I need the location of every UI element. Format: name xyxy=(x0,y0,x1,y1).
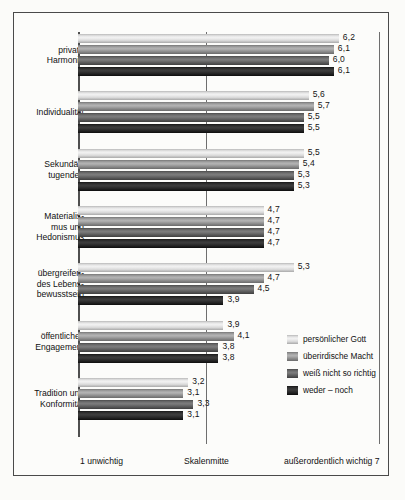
category-label: Materialis-mus undHedonismus xyxy=(16,211,84,243)
category-label-line: Individualität xyxy=(16,107,84,118)
bar-value-label: 6,2 xyxy=(343,32,355,42)
bar-value-label: 4,7 xyxy=(268,204,280,214)
scale-caption-right: außerordentlich wichtig 7 xyxy=(284,456,380,466)
bar-row: 5,3 xyxy=(78,171,378,182)
bar xyxy=(78,332,234,341)
bar-row: 4,7 xyxy=(78,274,378,285)
bar-row: 5,7 xyxy=(78,102,378,113)
category-label-line: Konformität xyxy=(16,399,84,410)
bar xyxy=(78,411,183,420)
bar xyxy=(78,343,218,352)
bar xyxy=(78,378,188,387)
bar-value-label: 5,5 xyxy=(308,122,320,132)
category-label-line: übergreifen- xyxy=(16,268,84,279)
bar-value-label: 6,1 xyxy=(338,43,350,53)
bar-row: 6,2 xyxy=(78,34,378,45)
category-label-line: mus und xyxy=(16,222,84,233)
bar-group: 5,34,74,53,9 xyxy=(78,263,378,307)
legend-swatch xyxy=(287,386,298,395)
bar-row: 5,3 xyxy=(78,182,378,193)
bar xyxy=(78,91,309,100)
chart-page: privateHarmonieIndividualitätSekundär-tu… xyxy=(0,0,405,500)
bar xyxy=(78,285,254,294)
bar-row: 5,5 xyxy=(78,124,378,135)
bar-value-label: 3,9 xyxy=(227,294,239,304)
bar xyxy=(78,400,193,409)
legend-item: persönlicher Gott xyxy=(287,334,387,347)
category-label-line: Engagement xyxy=(16,342,84,353)
legend-label: weiß nicht so richtig xyxy=(303,368,376,378)
bar xyxy=(78,217,264,226)
legend: persönlicher Gottüberirdische Machtweiß … xyxy=(287,334,387,402)
bar-group: 5,65,75,55,5 xyxy=(78,91,378,135)
bar-value-label: 4,7 xyxy=(268,215,280,225)
bar xyxy=(78,263,294,272)
bar-row: 3,1 xyxy=(78,411,378,422)
bar xyxy=(78,274,264,283)
bar-value-label: 3,1 xyxy=(187,409,199,419)
legend-swatch xyxy=(287,335,298,344)
bar-value-label: 5,5 xyxy=(308,111,320,121)
legend-item: überirdische Macht xyxy=(287,351,387,364)
bar-value-label: 3,1 xyxy=(187,387,199,397)
bar-value-label: 5,7 xyxy=(318,100,330,110)
bar xyxy=(78,354,218,363)
category-label: übergreifen-des Lebens-bewusstsein xyxy=(16,268,84,300)
scale-caption-left: 1 unwichtig xyxy=(80,456,123,466)
bar-value-label: 4,7 xyxy=(268,237,280,247)
legend-label: überirdische Macht xyxy=(303,351,373,361)
bar-value-label: 5,3 xyxy=(298,169,310,179)
bar-row: 3,9 xyxy=(78,296,378,307)
legend-swatch xyxy=(287,352,298,361)
bar xyxy=(78,102,314,111)
bar-value-label: 3,9 xyxy=(227,319,239,329)
bar-value-label: 4,1 xyxy=(238,330,250,340)
bar xyxy=(78,228,264,237)
bar-row: 4,7 xyxy=(78,217,378,228)
bar xyxy=(78,113,304,122)
category-label-line: Materialis- xyxy=(16,211,84,222)
bar xyxy=(78,160,299,169)
chart-frame: privateHarmonieIndividualitätSekundär-tu… xyxy=(13,12,389,476)
bar-value-label: 3,2 xyxy=(192,376,204,386)
bar-row: 4,7 xyxy=(78,206,378,217)
bar-row: 5,3 xyxy=(78,263,378,274)
category-label: Individualität xyxy=(16,107,84,118)
category-label-line: öffentliches xyxy=(16,331,84,342)
category-label-line: des Lebens- xyxy=(16,279,84,290)
bar xyxy=(78,124,304,133)
category-label-line: Sekundär- xyxy=(16,159,84,170)
bar xyxy=(78,182,294,191)
bar-row: 5,5 xyxy=(78,113,378,124)
category-label: Sekundär-tugenden xyxy=(16,159,84,180)
category-label-line: Tradition und xyxy=(16,388,84,399)
bar-row: 3,9 xyxy=(78,321,378,332)
legend-item: weiß nicht so richtig xyxy=(287,368,387,381)
bar-group: 6,26,16,06,1 xyxy=(78,34,378,78)
bar-row: 4,7 xyxy=(78,239,378,250)
category-label-line: Harmonie xyxy=(16,55,84,66)
bar xyxy=(78,389,183,398)
bar-value-label: 3,8 xyxy=(222,341,234,351)
category-label-line: Hedonismus xyxy=(16,232,84,243)
bar-value-label: 6,0 xyxy=(333,54,345,64)
legend-swatch xyxy=(287,369,298,378)
legend-label: persönlicher Gott xyxy=(303,334,366,344)
bar xyxy=(78,149,304,158)
legend-item: weder – noch xyxy=(287,385,387,398)
bar-value-label: 5,3 xyxy=(298,180,310,190)
bar-value-label: 5,4 xyxy=(303,158,315,168)
bar-row: 6,1 xyxy=(78,67,378,78)
bar-value-label: 6,1 xyxy=(338,65,350,75)
bar xyxy=(78,171,294,180)
bar-group: 5,55,45,35,3 xyxy=(78,149,378,193)
category-label: öffentlichesEngagement xyxy=(16,331,84,352)
bar-value-label: 5,6 xyxy=(313,89,325,99)
bar-value-label: 4,5 xyxy=(258,283,270,293)
bar-group: 4,74,74,74,7 xyxy=(78,206,378,250)
bar-value-label: 4,7 xyxy=(268,272,280,282)
legend-label: weder – noch xyxy=(303,385,353,395)
category-label-line: private xyxy=(16,45,84,56)
bar xyxy=(78,67,334,76)
bar-value-label: 5,3 xyxy=(298,261,310,271)
